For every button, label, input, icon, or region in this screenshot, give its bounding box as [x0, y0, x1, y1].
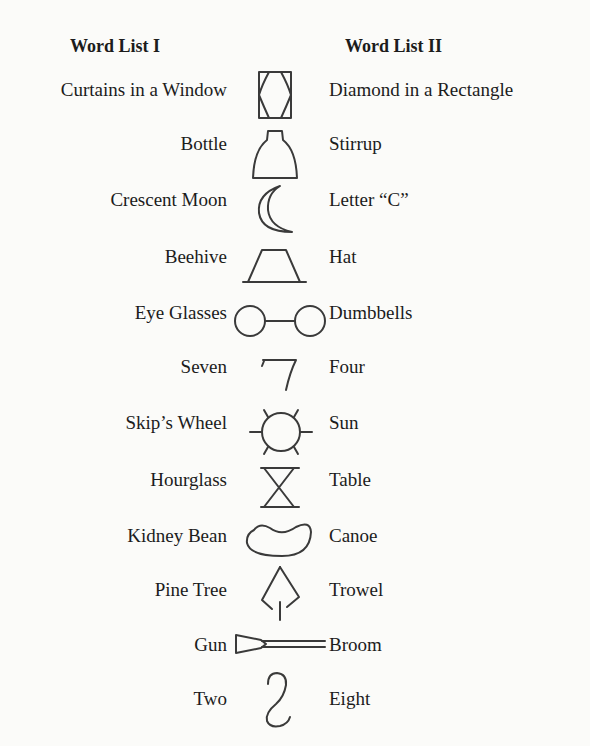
figures-column: [0, 0, 590, 746]
window-curtains-figure: [259, 72, 291, 118]
sun-wheel-figure: [250, 410, 312, 454]
two-eight-figure: [267, 673, 290, 726]
hourglass-figure: [261, 468, 299, 507]
gun-broom-figure: [236, 635, 325, 653]
trapezoid-figure: [243, 250, 306, 282]
crescent-figure: [259, 186, 292, 232]
two-circles-figure: [235, 306, 325, 336]
bottle-figure: [253, 131, 297, 178]
seven-figure: [262, 360, 296, 390]
bean-figure: [247, 524, 311, 556]
tree-trowel-figure: [262, 567, 299, 620]
